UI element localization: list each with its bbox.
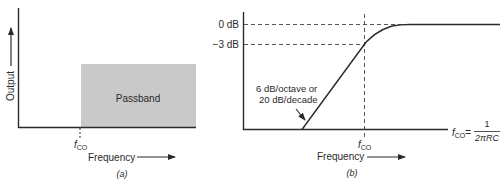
slope-label-line2: 20 dB/decade	[259, 94, 318, 105]
cutoff-label-a: fCO	[74, 139, 88, 151]
label-0db: 0 dB	[218, 19, 239, 30]
caption-a: (a)	[117, 169, 128, 179]
formula-numerator: 1	[484, 119, 489, 129]
caption-b: (b)	[347, 168, 358, 178]
formula-denominator: 2πRC	[474, 133, 500, 143]
label-3db: −3 dB	[213, 39, 240, 50]
figure-b: 0 dB −3 dB 6 dB/octave or 20 dB/decade f…	[213, 12, 500, 178]
figure-canvas: Output Passband fCO Frequency (a) 0 dB −…	[0, 0, 504, 184]
response-curve	[302, 25, 500, 130]
x-axis-label-b: Frequency	[317, 151, 364, 162]
passband-label: Passband	[116, 93, 160, 104]
x-axis-label-a: Frequency	[88, 152, 135, 163]
svg-text:fCO=: fCO=	[452, 127, 471, 139]
slope-label-line1: 6 dB/octave or	[256, 83, 317, 94]
y-axis-label-a: Output	[5, 71, 16, 101]
cutoff-label-b: fCO	[358, 139, 372, 151]
cutoff-formula: fCO= 1 2πRC	[452, 119, 500, 143]
slope-arrow-icon	[296, 109, 305, 120]
figure-a: Output Passband fCO Frequency (a)	[5, 8, 196, 179]
